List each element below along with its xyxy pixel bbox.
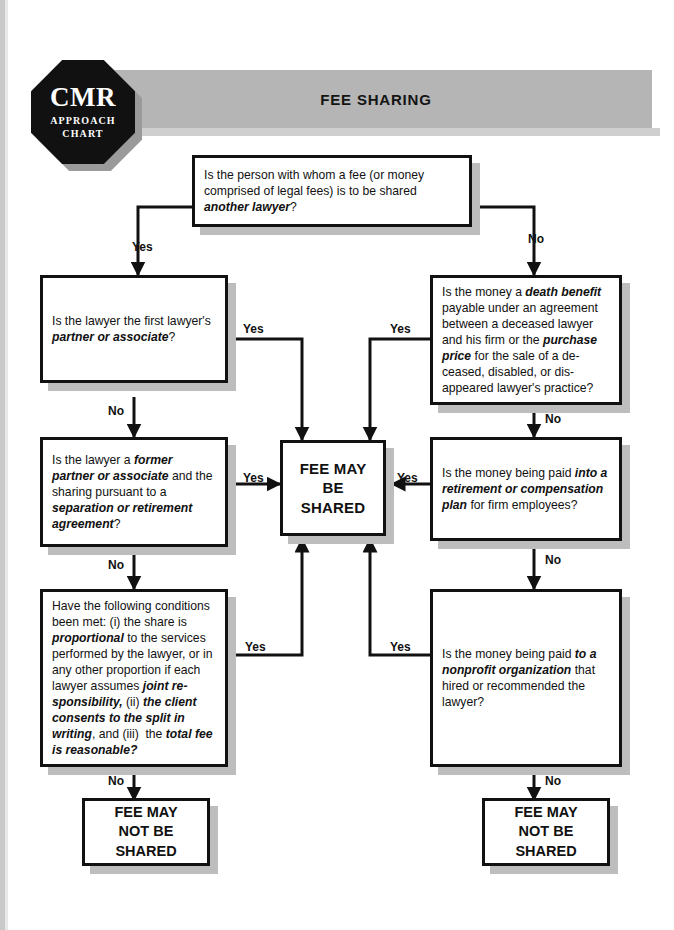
result-box-fee-may-be-shared[interactable]: FEE MAYBESHARED xyxy=(280,440,386,536)
result-text-fee-may-be-shared: FEE MAYBESHARED xyxy=(283,459,383,518)
decision-box-death-benefit[interactable]: Is the money a death benefit payable und… xyxy=(430,275,622,405)
decision-text-conditions: Have the following conditions been met: … xyxy=(43,598,225,759)
decision-box-another-lawyer[interactable]: Is the person with whom a fee (or money … xyxy=(192,155,472,227)
edge-nonprofit-yes xyxy=(370,539,430,655)
edge-label-root-yes: Yes xyxy=(132,240,153,254)
edge-label-conditions-yes: Yes xyxy=(245,640,266,654)
edge-label-retirement-no: No xyxy=(545,553,561,567)
decision-text-former-partner: Is the lawyer a former partner or associ… xyxy=(43,452,225,532)
edge-root-no xyxy=(472,207,534,275)
approach-chart-page: FEE SHARING CMR APPROACH CHART xyxy=(0,0,674,930)
decision-box-partner-or-associate[interactable]: Is the lawyer the first lawyer's partner… xyxy=(40,275,228,383)
result-box-fee-may-not-be-shared-right[interactable]: FEE MAYNOT BESHARED xyxy=(482,798,610,866)
decision-text-retirement-plan: Is the money being paid into a retiremen… xyxy=(433,465,619,513)
edge-label-partner-yes: Yes xyxy=(243,322,264,336)
result-text-fee-may-not-be-shared-left: FEE MAYNOT BESHARED xyxy=(85,803,207,862)
edge-label-retirement-yes: Yes xyxy=(397,471,418,485)
edge-conditions-yes xyxy=(228,539,302,655)
result-text-fee-may-not-be-shared-right: FEE MAYNOT BESHARED xyxy=(485,803,607,862)
edge-label-root-no: No xyxy=(528,232,544,246)
decision-box-retirement-plan[interactable]: Is the money being paid into a retiremen… xyxy=(430,437,622,541)
decision-box-nonprofit[interactable]: Is the money being paid to a nonprofit o… xyxy=(430,589,622,767)
edge-death-yes xyxy=(370,339,430,440)
result-box-fee-may-not-be-shared-left[interactable]: FEE MAYNOT BESHARED xyxy=(82,798,210,866)
edge-label-nonprofit-yes: Yes xyxy=(390,640,411,654)
edge-label-partner-no: No xyxy=(108,404,124,418)
decision-text-partner-or-associate: Is the lawyer the first lawyer's partner… xyxy=(43,313,225,345)
edge-label-death-no: No xyxy=(545,412,561,426)
edge-label-death-yes: Yes xyxy=(390,322,411,336)
decision-box-former-partner[interactable]: Is the lawyer a former partner or associ… xyxy=(40,437,228,547)
decision-box-conditions[interactable]: Have the following conditions been met: … xyxy=(40,589,228,767)
edge-label-conditions-no: No xyxy=(108,774,124,788)
decision-text-death-benefit: Is the money a death benefit payable und… xyxy=(433,284,619,397)
decision-text-another-lawyer: Is the person with whom a fee (or money … xyxy=(195,167,469,215)
edge-label-former-yes: Yes xyxy=(243,471,264,485)
edge-label-nonprofit-no: No xyxy=(545,774,561,788)
edge-label-former-no: No xyxy=(108,558,124,572)
decision-text-nonprofit: Is the money being paid to a nonprofit o… xyxy=(433,646,619,710)
edge-partner-yes xyxy=(228,339,302,440)
